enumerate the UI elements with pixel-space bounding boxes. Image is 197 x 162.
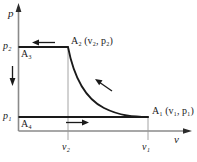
p-axis-label: p — [8, 8, 14, 19]
state-label-A4: A₄ — [21, 119, 32, 129]
v-axis-label: v — [174, 134, 179, 145]
isotherm-curve-path — [68, 47, 148, 117]
top-isobar-arrow-icon — [32, 40, 55, 46]
v-axis-arrowhead — [183, 128, 192, 134]
v2-tick-label: v₂ — [62, 142, 70, 152]
curve-arrow-icon — [95, 79, 112, 91]
state-label-A3: A₃ — [21, 49, 32, 59]
pv-diagram-figure: p v p₂ p₁ v₂ v₁ A₂ (v₂, p₂) A₁ (v₁, p₁) … — [0, 0, 197, 162]
projection-lines-group — [68, 47, 148, 140]
process-paths-group — [19, 47, 149, 117]
left-vertical-arrow-icon — [10, 66, 16, 86]
diagram-canvas — [0, 0, 197, 162]
p-axis-arrowhead — [16, 3, 22, 12]
state-label-A2: A₂ (v₂, p₂) — [71, 36, 113, 46]
v1-tick-label: v₁ — [142, 142, 150, 152]
p1-tick-label: p₁ — [3, 111, 11, 121]
state-label-A1: A₁ (v₁, p₁) — [152, 106, 194, 116]
bottom-isobar-arrow-icon — [66, 120, 89, 126]
p2-tick-label: p₂ — [3, 41, 11, 51]
